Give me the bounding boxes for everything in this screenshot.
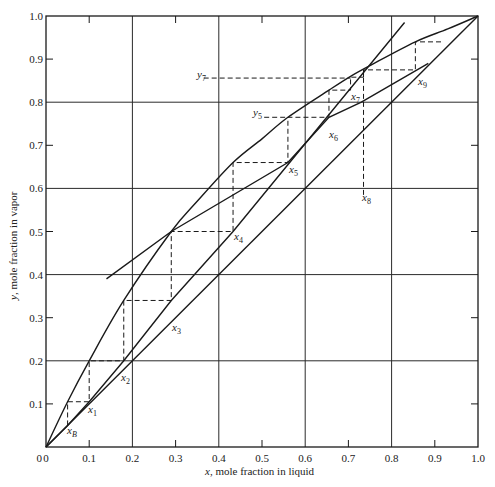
mccabe-thiele-chart: 00.10.20.30.40.50.60.70.80.91.000.10.20.…: [0, 0, 495, 487]
y-tick-label: 0.8: [29, 96, 43, 108]
stage-steps-line: [68, 42, 444, 426]
x-tick-label: 0.8: [385, 452, 399, 464]
label-xB: xB: [66, 424, 77, 439]
label-x5: x5: [288, 163, 298, 178]
x-tick-label: 0.9: [428, 452, 442, 464]
label-x6: x6: [328, 128, 338, 143]
label-x2: x2: [120, 371, 130, 386]
x-tick-label: 0.3: [169, 452, 183, 464]
x-tick-label: 0.4: [212, 452, 226, 464]
label-x4: x4: [233, 230, 243, 245]
label-y5: y5: [252, 106, 262, 121]
label-x7: x7: [350, 90, 360, 105]
y-tick-label: 0.3: [29, 312, 43, 324]
stripping-operating-line-line: [46, 22, 405, 447]
rectifying-operating-line-line: [106, 63, 428, 279]
diagonal-y-x-line: [46, 16, 478, 447]
y-tick-label: 1.0: [29, 10, 43, 22]
x-tick-label: 1.0: [471, 452, 485, 464]
x-tick-label: 0.2: [126, 452, 140, 464]
x-tick-label: 0.5: [255, 452, 269, 464]
y-tick-label: 0: [37, 452, 43, 464]
label-y7: y7: [196, 68, 206, 83]
x-tick-label: 0.1: [82, 452, 96, 464]
x-tick-label: 0.7: [342, 452, 356, 464]
y-tick-label: 0.6: [29, 182, 43, 194]
y-tick-label: 0.2: [29, 355, 43, 367]
label-x9: x9: [417, 75, 427, 90]
data-series: [46, 16, 478, 447]
y-tick-label: 0.5: [29, 226, 43, 238]
label-x8: x8: [361, 191, 371, 206]
label-x3: x3: [171, 321, 181, 336]
y-tick-label: 0.1: [29, 398, 43, 410]
x-tick-label: 0: [43, 452, 49, 464]
y-tick-label: 0.4: [29, 269, 43, 281]
y-tick-label: 0.9: [29, 53, 43, 65]
y-tick-label: 0.7: [29, 139, 43, 151]
y-axis-title: y, mole fraction in vapor: [7, 191, 19, 301]
label-x1: x1: [87, 403, 97, 418]
x-axis-title: x, mole fraction in liquid: [204, 465, 315, 477]
x-tick-label: 0.6: [298, 452, 312, 464]
